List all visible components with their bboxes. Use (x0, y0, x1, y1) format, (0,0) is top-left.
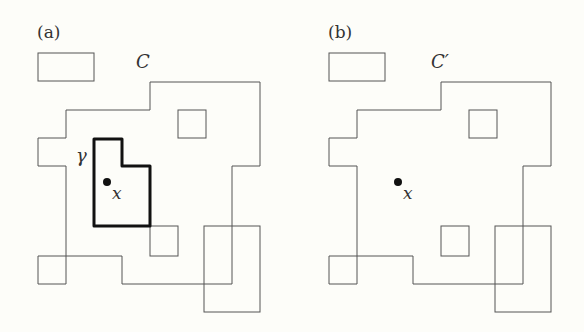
panel-a: (a) C γ x (37, 22, 260, 312)
panel-b: (b) C′ x (328, 22, 551, 312)
gamma-label: γ (76, 145, 87, 166)
point-x-label: x (112, 183, 122, 203)
inner-hole-square (178, 110, 206, 138)
set-c-label: C (136, 51, 150, 72)
inner-hole-square (469, 110, 497, 138)
gamma-contour (94, 139, 150, 226)
set-c-prime-label: C′ (431, 51, 449, 72)
lower-small-square (150, 226, 178, 256)
figure: (a) C γ x (b) C′ (0, 0, 584, 332)
point-x (394, 178, 402, 186)
isolated-rectangle (329, 53, 385, 81)
panel-b-label: (b) (328, 22, 352, 42)
isolated-rectangle (38, 53, 94, 81)
main-region-outline (357, 82, 551, 284)
lower-small-square (441, 226, 469, 256)
point-x (103, 178, 111, 186)
left-step-outline (329, 110, 441, 284)
point-x-label: x (403, 183, 413, 203)
panel-a-label: (a) (37, 22, 60, 42)
diagram-canvas: (a) C γ x (b) C′ (0, 0, 584, 332)
